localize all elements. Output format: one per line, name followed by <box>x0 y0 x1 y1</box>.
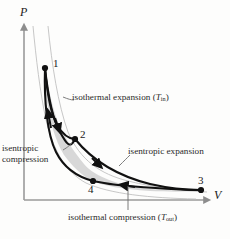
state-point-label-4: 4 <box>88 184 94 196</box>
state-point-dot-3 <box>198 187 204 193</box>
label-isothermal-expansion-text: isothermal expansion ( <box>72 92 156 102</box>
label-isothermal-compression-close: ) <box>174 212 177 222</box>
label-isothermal-compression: isothermal compression (Tout) <box>68 213 177 223</box>
label-isentropic-expansion: isentropic expansion <box>128 147 204 157</box>
figure-canvas: P V 1 2 3 4 isothermal expansion (Tin) i… <box>0 0 230 239</box>
label-isentropic-compression-line1: isentropic <box>2 143 48 154</box>
state-point-dot-1 <box>42 65 48 71</box>
y-axis-label: P <box>20 6 27 19</box>
label-isentropic-compression-line2: compression <box>2 154 48 165</box>
pv-diagram-svg <box>0 0 230 239</box>
label-isothermal-expansion-close: ) <box>166 92 169 102</box>
label-isentropic-compression: isentropic compression <box>2 143 48 165</box>
label-isothermal-compression-subscript: out <box>166 215 174 222</box>
cycle-curves <box>45 68 201 190</box>
state-point-label-3: 3 <box>198 175 204 187</box>
state-point-dot-2 <box>72 136 78 142</box>
state-point-label-1: 1 <box>53 58 59 70</box>
cycle-shaded-area <box>45 68 201 192</box>
x-axis-label: V <box>214 189 221 202</box>
shade-fill <box>45 68 201 192</box>
label-isothermal-compression-text: isothermal compression ( <box>68 212 161 222</box>
guide-cold-isotherm <box>48 26 207 192</box>
guide-hot-isotherm <box>33 26 196 199</box>
state-point-label-2: 2 <box>80 129 86 141</box>
label-isothermal-expansion: isothermal expansion (Tin) <box>72 93 169 103</box>
